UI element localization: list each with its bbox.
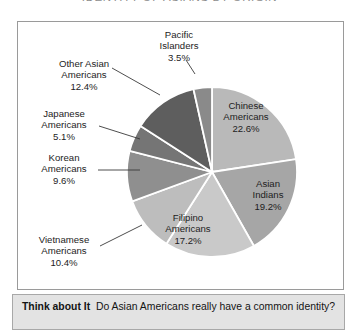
page-title: IDENTITY OF ASIANS BY ORIGIN [0, 0, 359, 3]
think-about-it-box: Think about It Do Asian Americans really… [12, 294, 345, 330]
pie-label-vietnamese-americans: Vietnamese Americans 10.4% [22, 234, 106, 268]
pie-label-asian-indians: Asian Indians 19.2% [237, 178, 299, 212]
caption-question: Do Asian Americans really have a common … [96, 301, 335, 312]
caption-text: Think about It Do Asian Americans really… [22, 300, 335, 313]
pie-chart-figure: IDENTITY OF ASIANS BY ORIGIN Pacific Isl… [0, 0, 359, 333]
caption-lead: Think about It [22, 301, 90, 312]
pie-label-japanese-americans: Japanese Americans 5.1% [28, 108, 100, 142]
pie-label-chinese-americans: Chinese Americans 22.6% [208, 100, 284, 134]
pie-label-pacific-islanders: Pacific Islanders 3.5% [143, 29, 215, 63]
pie-label-korean-americans: Korean Americans 9.6% [28, 152, 100, 186]
pie-label-other-asian-americans: Other Asian Americans 12.4% [43, 58, 125, 92]
pie-label-filipino-americans: Filipino Americans 17.2% [152, 212, 224, 246]
